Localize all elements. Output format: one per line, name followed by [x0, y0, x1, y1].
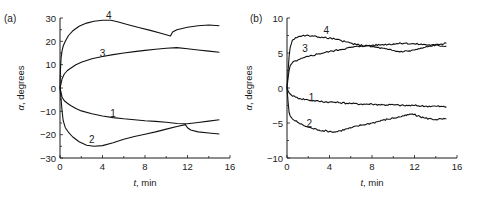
series-line-2 [60, 88, 219, 146]
series-label-2: 2 [89, 134, 95, 145]
x-axis-title: t, min [133, 177, 156, 188]
series-label-3: 3 [100, 48, 106, 59]
panel-label: (b) [250, 13, 262, 24]
y-tick-label: 20 [45, 36, 56, 47]
series-line-4 [60, 20, 219, 88]
series-line-3 [60, 48, 219, 88]
series-line-4 [287, 35, 446, 88]
panel-label: (a) [4, 13, 16, 24]
y-tick-label: 0 [278, 83, 283, 94]
series-label-1: 1 [110, 108, 116, 119]
y-tick-label: −20 [40, 129, 56, 140]
x-axis-title: t, min [360, 177, 383, 188]
x-tick-label: 12 [182, 161, 193, 172]
panel-b: 0481216−10−50510(b)t, minα, degrees1234 [243, 13, 462, 189]
series-line-3 [287, 43, 446, 88]
x-tick-label: 4 [100, 161, 105, 172]
y-tick-label: −10 [40, 106, 56, 117]
y-tick-label: −10 [267, 153, 283, 164]
series-label-4: 4 [324, 25, 330, 36]
x-tick-label: 12 [409, 161, 420, 172]
series-label-1: 1 [309, 92, 315, 103]
panel-a: 0481216−30−20−100102030(a)t, minα, degre… [4, 10, 235, 188]
y-tick-label: 10 [272, 13, 283, 24]
x-tick-label: 16 [225, 161, 236, 172]
y-tick-label: 30 [45, 13, 56, 24]
series-line-1 [60, 88, 219, 124]
y-tick-label: −30 [40, 153, 56, 164]
series-label-2: 2 [307, 118, 313, 129]
series-label-4: 4 [106, 10, 112, 21]
y-tick-label: 0 [51, 83, 56, 94]
x-tick-label: 16 [452, 161, 463, 172]
y-axis-title: α, degrees [243, 65, 254, 110]
y-tick-label: −5 [272, 118, 283, 129]
x-tick-label: 8 [142, 161, 147, 172]
x-tick-label: 4 [327, 161, 332, 172]
x-tick-label: 8 [369, 161, 374, 172]
y-tick-label: 5 [278, 48, 283, 59]
y-tick-label: 10 [45, 59, 56, 70]
series-label-3: 3 [302, 43, 308, 54]
x-tick-label: 0 [57, 161, 62, 172]
figure: 0481216−30−20−100102030(a)t, minα, degre… [0, 0, 477, 200]
x-tick-label: 0 [284, 161, 289, 172]
y-axis-title: α, degrees [15, 65, 26, 110]
